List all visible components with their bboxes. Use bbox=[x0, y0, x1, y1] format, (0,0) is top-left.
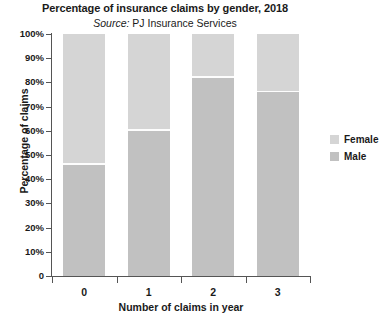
bar-segment-male[interactable] bbox=[128, 131, 170, 276]
y-axis-tick-label: 100% bbox=[0, 29, 44, 39]
y-axis-tick bbox=[46, 58, 52, 59]
x-axis-tick-label: 2 bbox=[193, 286, 233, 298]
chart-title: Percentage of insurance claims by gender… bbox=[0, 2, 330, 14]
x-axis-tick-label: 1 bbox=[129, 286, 169, 298]
legend-swatch-icon bbox=[330, 135, 339, 144]
bar-segment-divider bbox=[128, 129, 170, 131]
y-axis-title: Percentage of claims bbox=[18, 71, 30, 211]
x-axis-tick bbox=[52, 277, 53, 283]
y-axis-tick bbox=[46, 82, 52, 83]
y-axis-tick bbox=[46, 203, 52, 204]
bar-segment-male[interactable] bbox=[257, 92, 299, 276]
legend-item[interactable]: Male bbox=[330, 151, 390, 162]
x-axis-tick bbox=[310, 277, 311, 283]
chart-subtitle-source-name: PJ Insurance Services bbox=[132, 17, 236, 29]
legend-swatch-icon bbox=[330, 152, 339, 161]
legend-item-label: Male bbox=[344, 151, 366, 162]
legend-item[interactable]: Female bbox=[330, 134, 390, 145]
y-axis-tick bbox=[46, 155, 52, 156]
y-axis-tick-label: 90% bbox=[0, 53, 44, 63]
y-axis-tick-label: 0 bbox=[0, 271, 44, 281]
bar-segment-divider bbox=[192, 76, 234, 78]
x-axis-tick bbox=[117, 277, 118, 283]
bar-segment-male[interactable] bbox=[192, 78, 234, 276]
x-axis-tick-label: 3 bbox=[258, 286, 298, 298]
x-axis-tick-label: 0 bbox=[64, 286, 104, 298]
y-axis-tick bbox=[46, 228, 52, 229]
y-axis-tick-label: 20% bbox=[0, 223, 44, 233]
bar-segment-female[interactable] bbox=[257, 34, 299, 92]
bar-segment-female[interactable] bbox=[128, 34, 170, 131]
bar-group[interactable] bbox=[63, 34, 105, 276]
y-axis-tick bbox=[46, 252, 52, 253]
x-axis-tick bbox=[246, 277, 247, 283]
y-axis-tick bbox=[46, 107, 52, 108]
y-axis-tick-label: 10% bbox=[0, 247, 44, 257]
bar-segment-female[interactable] bbox=[192, 34, 234, 78]
chart-subtitle: Source: PJ Insurance Services bbox=[0, 17, 330, 29]
y-axis-tick bbox=[46, 131, 52, 132]
bar-segment-divider bbox=[63, 163, 105, 165]
bar-group[interactable] bbox=[257, 34, 299, 276]
bar-segment-divider bbox=[257, 91, 299, 93]
chart-subtitle-source-word: Source: bbox=[93, 17, 129, 29]
x-axis-tick bbox=[181, 277, 182, 283]
plot-area bbox=[52, 34, 310, 276]
bar-group[interactable] bbox=[192, 34, 234, 276]
x-axis-title: Number of claims in year bbox=[52, 301, 310, 313]
legend-item-label: Female bbox=[344, 134, 378, 145]
y-axis-tick bbox=[46, 179, 52, 180]
y-axis-tick bbox=[46, 34, 52, 35]
chart-legend: FemaleMale bbox=[330, 134, 390, 168]
bar-segment-male[interactable] bbox=[63, 165, 105, 276]
bar-group[interactable] bbox=[128, 34, 170, 276]
bar-segment-female[interactable] bbox=[63, 34, 105, 165]
